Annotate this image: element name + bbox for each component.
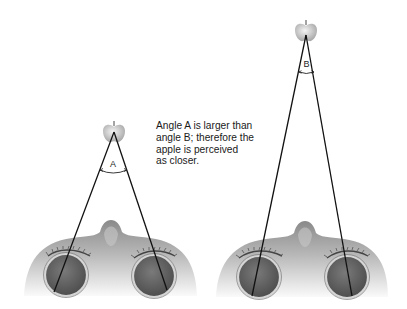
eyeball [326,256,368,298]
caption-line: as closer. [156,155,266,167]
angle-a-label: A [110,159,116,169]
caption-line: apple is perceived [156,144,266,156]
right-face [216,221,388,300]
angle-a-arc [100,170,127,173]
caption-line: angle B; therefore the [156,132,266,144]
apple-near [103,121,125,142]
caption: Angle A is larger than angle B; therefor… [156,120,266,167]
left-face [24,220,197,299]
angle-b-label: B [303,59,309,69]
caption-line: Angle A is larger than [156,120,266,132]
eyeball [133,255,175,297]
